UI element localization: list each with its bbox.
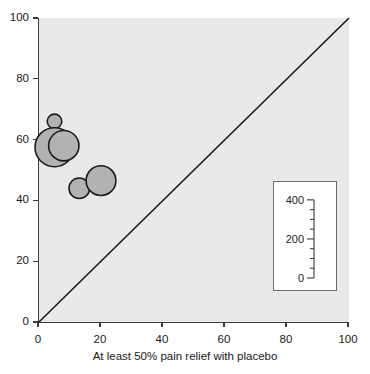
bubble-point <box>47 114 62 129</box>
bubble-chart-figure: 020406080100 020406080100 At least 50% p… <box>0 0 370 374</box>
size-legend-tick-label: 200 <box>274 233 304 244</box>
x-tick-label: 80 <box>280 334 293 346</box>
x-tick-label: 100 <box>338 334 357 346</box>
x-tick-label: 40 <box>156 334 169 346</box>
x-axis-title: At least 50% pain relief with placebo <box>0 350 370 362</box>
y-tick-label: 20 <box>0 255 29 267</box>
size-legend-box: 0200400 <box>273 181 337 291</box>
x-tick-mark <box>37 322 38 327</box>
clipped-caption-remnant <box>42 0 332 4</box>
x-tick-label: 0 <box>35 334 41 346</box>
x-tick-label: 60 <box>218 334 231 346</box>
x-tick-mark <box>99 322 100 327</box>
y-tick-label: 100 <box>0 12 29 24</box>
bubble-series <box>35 114 116 198</box>
y-tick-label: 0 <box>0 316 29 328</box>
x-tick-mark <box>347 322 348 327</box>
y-tick-label: 60 <box>0 134 29 146</box>
x-tick-mark <box>223 322 224 327</box>
bubble-point <box>49 131 79 161</box>
x-tick-mark <box>285 322 286 327</box>
size-legend-tick-marks <box>307 200 314 278</box>
size-legend-tick-label: 400 <box>274 194 304 205</box>
size-legend-tick-label: 0 <box>274 273 304 284</box>
x-tick-label: 20 <box>94 334 107 346</box>
x-tick-mark <box>161 322 162 327</box>
y-tick-label: 40 <box>0 195 29 207</box>
bubble-point <box>86 166 116 196</box>
y-tick-label: 80 <box>0 73 29 85</box>
